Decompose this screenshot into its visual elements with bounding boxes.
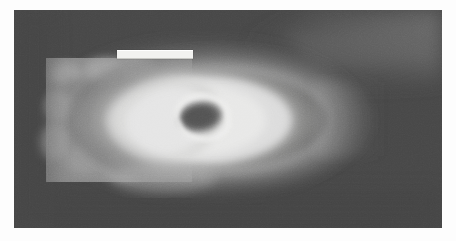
field-canvas: [14, 10, 442, 228]
scale-bar: [117, 50, 193, 59]
figure-root: [0, 0, 456, 241]
lower-shading: [112, 162, 216, 194]
plume-tail-fade: [314, 82, 384, 156]
field-contour-svg: [14, 10, 442, 228]
